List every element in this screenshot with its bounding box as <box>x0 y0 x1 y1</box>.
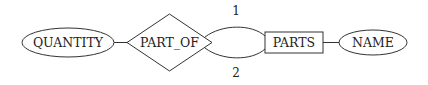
relationship-part-of: PART_OF <box>127 14 212 71</box>
relationship-part-of-label: PART_OF <box>140 35 199 50</box>
attribute-quantity-label: QUANTITY <box>33 35 104 50</box>
entity-parts-label: PARTS <box>273 35 315 50</box>
er-diagram: QUANTITY PART_OF PARTS NAME 1 2 <box>0 0 428 85</box>
edge-part-of-parts-role-1 <box>205 27 265 37</box>
role-label-2: 2 <box>232 66 240 80</box>
edge-part-of-parts-role-2 <box>205 48 265 58</box>
attribute-name-label: NAME <box>352 35 394 50</box>
attribute-name: NAME <box>339 30 407 55</box>
role-label-1: 1 <box>232 4 240 18</box>
attribute-quantity: QUANTITY <box>22 28 114 57</box>
entity-parts: PARTS <box>265 32 323 53</box>
